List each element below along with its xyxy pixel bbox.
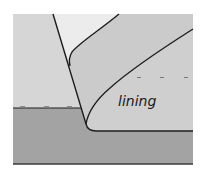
lining-label: lining [118,94,156,108]
diagram-canvas [0,0,205,174]
lining-diagram: lining [0,0,205,174]
